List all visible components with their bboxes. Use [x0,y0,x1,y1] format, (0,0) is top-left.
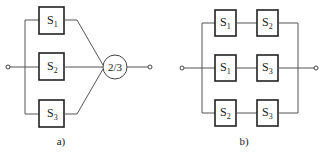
block-a-s2: S2 [39,53,64,80]
caption-b: b) [239,135,249,148]
diagram-a: S1 S2 S3 2/3 a) [6,7,152,148]
input-terminal-a [6,65,10,69]
row-b-3: S2 S3 [215,100,298,126]
input-terminal-b [180,66,184,70]
block-a-s3: S3 [39,100,64,127]
row-b-2: S1 S3 [215,55,314,81]
block-a-s1: S1 [39,7,64,34]
output-terminal-a [148,65,152,69]
voter-label: 2/3 [108,61,123,73]
voter-2-of-3: 2/3 [103,55,127,79]
output-terminal-b [314,66,318,70]
diagram-b: S1 S2 S1 S3 S2 S3 b) [180,10,318,148]
reliability-diagrams: S1 S2 S3 2/3 a) [0,0,324,154]
caption-a: a) [57,135,66,148]
row-b-1: S1 S2 [215,10,298,36]
